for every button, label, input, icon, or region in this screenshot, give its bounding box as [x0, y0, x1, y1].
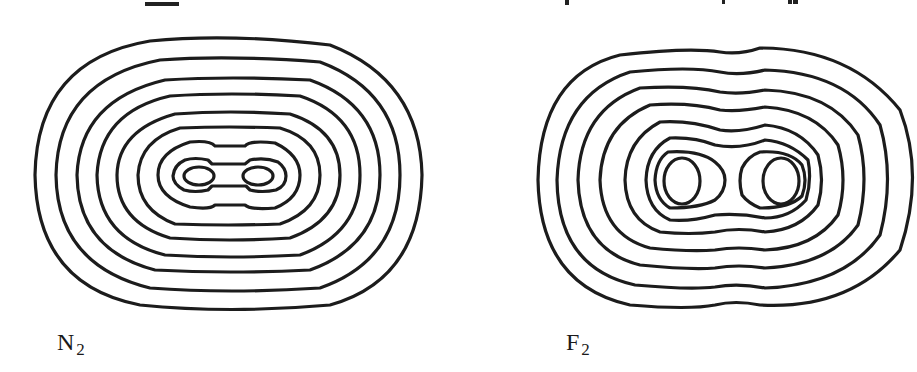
f2-nucleus-marker-right	[777, 177, 785, 185]
n2-contour-7	[158, 142, 300, 209]
f2-contour-map	[538, 48, 913, 308]
n2-label-subscript: 2	[76, 340, 85, 359]
n2-contour-5	[117, 112, 340, 240]
n2-label-main: N	[57, 329, 74, 355]
f2-label-subscript: 2	[581, 340, 590, 359]
f2-label-main: F	[566, 329, 579, 355]
contour-diagrams	[0, 0, 917, 372]
n2-atom-contour-right	[243, 167, 273, 185]
n2-contour-8	[173, 159, 286, 192]
f2-atom-contour-right	[763, 158, 799, 204]
f2-atom-contour-left	[664, 158, 700, 204]
f2-nucleus-marker-left	[678, 177, 686, 185]
n2-nucleus-marker-left	[195, 172, 203, 180]
n2-contour-6	[138, 127, 320, 225]
f2-contour-4	[600, 104, 843, 250]
n2-contour-3	[77, 78, 380, 272]
n2-atom-contour-left	[184, 167, 214, 185]
n2-contour-map	[35, 38, 422, 310]
n2-nucleus-marker-right	[254, 172, 262, 180]
f2-label: F2	[566, 329, 590, 360]
n2-label: N2	[57, 329, 85, 360]
f2-contour-2	[557, 69, 888, 288]
